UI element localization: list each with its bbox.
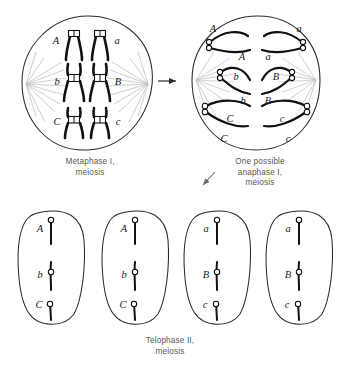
label-anaphase-b2: b	[240, 95, 245, 106]
label-anaphase-C2: C	[220, 133, 228, 144]
label-t1-bot: C	[35, 299, 43, 310]
label-t3-bot: c	[203, 299, 208, 310]
caption-anaphase-line1: One possible	[212, 157, 308, 168]
caption-metaphase: Metaphase I, meiosis	[42, 157, 138, 178]
telophase-ii-cell-3	[184, 211, 250, 324]
label-t4-top: a	[285, 223, 290, 234]
label-metaphase-top-right: a	[114, 35, 119, 46]
label-t3-mid: B	[203, 269, 210, 280]
telophase-ii-cell-4	[266, 211, 332, 324]
label-t2-bot: C	[119, 299, 127, 310]
label-metaphase-bot-right: c	[116, 116, 121, 127]
label-t4-bot: c	[285, 299, 290, 310]
label-anaphase-B1: B	[273, 71, 280, 82]
label-metaphase-top-left: A	[52, 35, 60, 46]
label-anaphase-A2: A	[238, 51, 246, 62]
label-anaphase-c1: c	[280, 113, 285, 124]
caption-anaphase: One possible anaphase I, meiosis	[212, 157, 308, 189]
label-t4-mid: B	[285, 269, 292, 280]
caption-metaphase-line1: Metaphase I,	[42, 157, 138, 168]
label-metaphase-bot-left: C	[53, 116, 61, 127]
caption-telophase: Telophase II, meiosis	[122, 336, 218, 357]
caption-metaphase-line2: meiosis	[42, 168, 138, 179]
telophase-ii-cell-2	[102, 211, 168, 324]
caption-telophase-line2: meiosis	[122, 347, 218, 358]
cell-membrane-anaphase	[192, 16, 320, 150]
caption-telophase-line1: Telophase II,	[122, 336, 218, 347]
label-t3-top: a	[203, 223, 208, 234]
label-anaphase-c2: c	[286, 133, 291, 144]
label-anaphase-A1: A	[209, 23, 217, 34]
label-anaphase-B2: B	[265, 95, 272, 106]
label-anaphase-b1: b	[233, 71, 238, 82]
caption-anaphase-line3: meiosis	[212, 178, 308, 189]
telophase-ii-cell-1	[18, 211, 84, 324]
label-metaphase-mid-left: b	[54, 76, 59, 87]
label-t2-top: A	[120, 223, 128, 234]
caption-anaphase-line2: anaphase I,	[212, 168, 308, 179]
label-metaphase-mid-right: B	[115, 76, 122, 87]
label-t2-mid: b	[121, 269, 126, 280]
label-t1-top: A	[36, 223, 44, 234]
anaphase-i-cell	[192, 16, 320, 150]
meiosis-figure: A a b B C c A A a a b b B B C C c c A b …	[0, 0, 339, 374]
label-anaphase-C1: C	[226, 113, 234, 124]
cell-membrane-metaphase	[22, 16, 152, 150]
label-t1-mid: b	[37, 269, 42, 280]
label-anaphase-a1: a	[296, 23, 301, 34]
metaphase-i-cell	[22, 16, 152, 150]
label-anaphase-a2: a	[265, 51, 270, 62]
